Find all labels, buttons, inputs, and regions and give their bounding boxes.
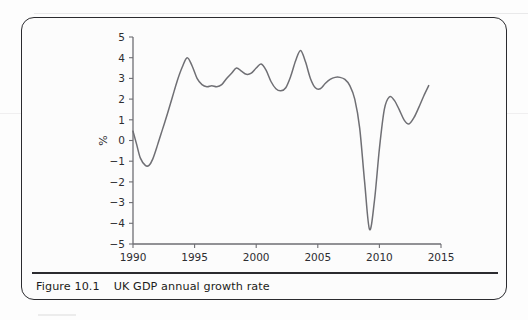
chart-plot-area: −5−4−3−2−1012345 19901995200020052010201… [22, 18, 508, 263]
y-tick-label-1: 1 [118, 114, 125, 126]
y-tick-label-3: 3 [118, 72, 125, 84]
figure-caption: Figure 10.1UK GDP annual growth rate [36, 280, 270, 293]
y-tick-label-4: 4 [118, 52, 125, 64]
gdp-growth-line-chart: −5−4−3−2−1012345 19901995200020052010201… [22, 18, 508, 263]
y-tick-label--2: −2 [110, 176, 125, 188]
figure-card: −5−4−3−2−1012345 19901995200020052010201… [21, 17, 507, 300]
y-axis: −5−4−3−2−1012345 [110, 31, 133, 250]
x-tick-label-2015: 2015 [428, 251, 455, 263]
caption-divider [32, 272, 498, 274]
page-background: −5−4−3−2−1012345 19901995200020052010201… [0, 0, 528, 320]
x-tick-label-2005: 2005 [304, 251, 331, 263]
y-tick-label-5: 5 [118, 31, 125, 43]
x-tick-label-1995: 1995 [181, 251, 208, 263]
y-tick-label--5: −5 [110, 238, 125, 250]
y-tick-label-2: 2 [118, 93, 125, 105]
data-series-group [133, 50, 429, 229]
y-axis-title-group: % [97, 135, 110, 145]
y-tick-label--3: −3 [110, 196, 125, 208]
figure-number: Figure 10.1 [36, 280, 100, 293]
series-line-0 [133, 50, 429, 229]
x-tick-label-2000: 2000 [243, 251, 270, 263]
x-axis: 199019952000200520102015 [120, 244, 455, 263]
x-tick-label-2010: 2010 [366, 251, 393, 263]
figure-caption-text: UK GDP annual growth rate [114, 280, 270, 293]
scan-artifact-top [34, 13, 528, 14]
x-tick-label-1990: 1990 [120, 251, 147, 263]
scan-artifact-bottom [38, 314, 76, 316]
y-tick-label--1: −1 [110, 155, 125, 167]
y-tick-label--4: −4 [110, 217, 126, 229]
y-tick-label-0: 0 [118, 134, 125, 146]
y-axis-title: % [97, 135, 110, 145]
